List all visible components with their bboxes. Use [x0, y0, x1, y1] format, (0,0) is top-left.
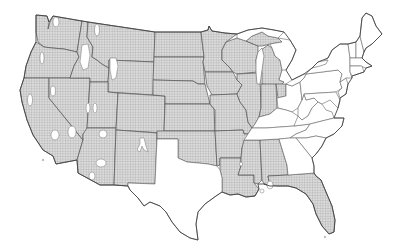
island-az-1 — [99, 130, 107, 138]
island-ut-1 — [93, 103, 97, 113]
state-ohio-hatched-part — [276, 84, 286, 98]
island-az-2 — [96, 159, 106, 167]
island-ca-2 — [51, 130, 59, 140]
island-ca-3 — [68, 126, 76, 138]
florida-keys — [324, 236, 326, 238]
us-map-svg — [0, 0, 397, 249]
us-map — [0, 0, 397, 249]
state-florida — [264, 173, 335, 234]
state-maine — [360, 13, 382, 52]
island-nv-1 — [51, 86, 56, 96]
state-arizona — [77, 128, 116, 185]
island-id-2 — [80, 44, 90, 70]
state-kansas — [164, 104, 215, 131]
island-nv-2 — [86, 103, 90, 113]
island-la-1 — [240, 162, 243, 166]
state-north-dakota — [154, 32, 204, 57]
island-ca-1 — [28, 94, 33, 106]
channel-island — [42, 159, 44, 161]
state-iowa — [205, 72, 242, 95]
state-colorado — [116, 93, 165, 133]
island-or-1 — [40, 52, 44, 64]
island-al-1 — [260, 189, 264, 193]
island-id-1 — [95, 24, 100, 36]
island-wa-1 — [53, 17, 59, 27]
state-new-mexico — [114, 130, 157, 186]
island-az-3 — [89, 172, 95, 180]
